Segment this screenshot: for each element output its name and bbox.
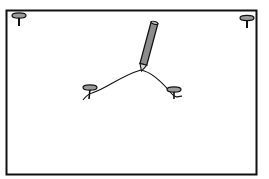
- board-frame: [7, 11, 257, 175]
- ellipse-drawing-diagram: [0, 0, 269, 179]
